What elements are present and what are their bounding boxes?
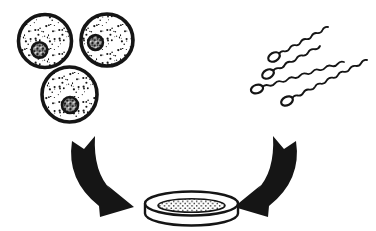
sperm-head: [267, 50, 282, 63]
sperm-tail: [262, 62, 344, 88]
right-arrow-icon: [234, 136, 297, 217]
left-arrow-icon: [71, 136, 134, 217]
petri-dish: [145, 192, 238, 226]
sperm-tail: [279, 27, 328, 54]
sperm-group: [250, 27, 367, 108]
culture-medium: [158, 199, 225, 213]
ivf-diagram-canvas: [0, 0, 376, 231]
sperm-head: [261, 67, 276, 80]
egg-cell-1: [19, 15, 72, 68]
sperm-2: [261, 46, 320, 81]
egg-membrane: [19, 15, 72, 68]
sperm-head: [250, 83, 264, 95]
egg-cells-group: [19, 14, 134, 122]
egg-nucleus: [32, 42, 48, 58]
egg-nucleus: [62, 97, 78, 113]
ivf-diagram: [0, 0, 376, 231]
sperm-4: [280, 60, 367, 108]
sperm-tail: [273, 46, 320, 71]
egg-nucleus: [88, 35, 103, 50]
egg-cell-3: [42, 67, 97, 122]
sperm-head: [280, 94, 295, 107]
egg-cell-2: [81, 14, 133, 66]
